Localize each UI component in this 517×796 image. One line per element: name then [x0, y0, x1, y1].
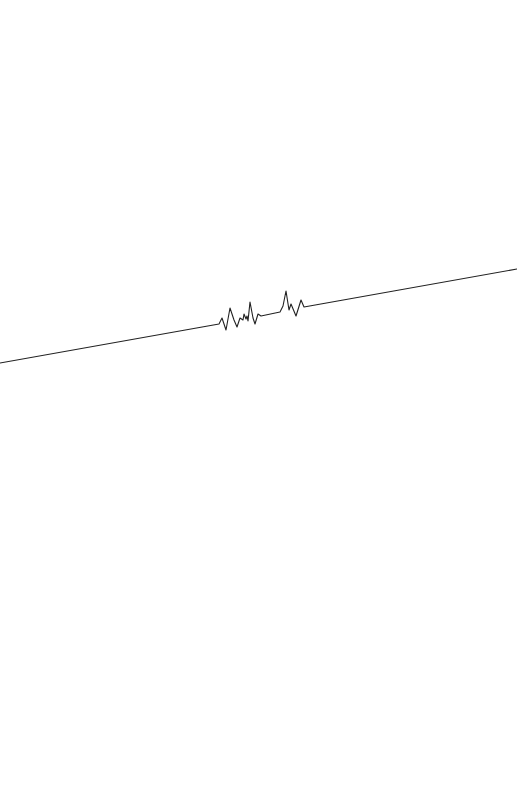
background: [0, 0, 517, 796]
ecg-line-canvas: [0, 0, 517, 796]
